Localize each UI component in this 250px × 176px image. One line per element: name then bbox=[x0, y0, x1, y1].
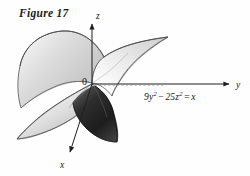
surface-illustration bbox=[0, 0, 250, 176]
equation-rhs: x bbox=[191, 92, 195, 102]
origin-label: 0 bbox=[82, 76, 87, 87]
surface-sheet-upper-right bbox=[92, 37, 168, 96]
figure-caption: Figure 17 bbox=[19, 7, 69, 19]
figure-panel: Figure 17 z y x 0 9y2−25z2=x bbox=[0, 0, 250, 176]
equation-coef-z: 25 bbox=[165, 92, 175, 102]
equation-equals: = bbox=[183, 92, 192, 102]
surface-equation-label: 9y2−25z2=x bbox=[144, 90, 196, 102]
axis-label-x: x bbox=[60, 160, 64, 170]
axis-label-y: y bbox=[236, 80, 240, 90]
axis-label-z: z bbox=[96, 11, 100, 21]
